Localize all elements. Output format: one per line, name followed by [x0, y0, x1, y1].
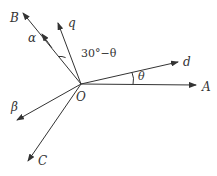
- label-A: A: [201, 80, 211, 94]
- vector-beta-arrow: [17, 84, 81, 120]
- vector-alpha-midarrow: [42, 34, 52, 48]
- vector-A-arrow: [81, 84, 196, 85]
- label-angle-theta: θ: [138, 70, 145, 83]
- label-angle-30-minus-theta: 30°−θ: [81, 47, 117, 60]
- label-d: d: [183, 55, 191, 69]
- label-B: B: [9, 11, 19, 25]
- diagram-svg: A d q B β C α O 30°−θ θ: [0, 0, 217, 176]
- label-C: C: [38, 154, 47, 168]
- vector-C-arrow: [28, 84, 81, 161]
- vector-diagram: A d q B β C α O 30°−θ θ: [0, 0, 217, 176]
- vector-q-arrow: [58, 23, 81, 84]
- label-beta: β: [10, 100, 18, 114]
- label-alpha: α: [28, 31, 36, 45]
- label-q: q: [68, 16, 76, 30]
- label-origin-O: O: [76, 90, 86, 104]
- vector-d-arrow: [81, 62, 178, 84]
- angle-arc-theta: [132, 73, 134, 85]
